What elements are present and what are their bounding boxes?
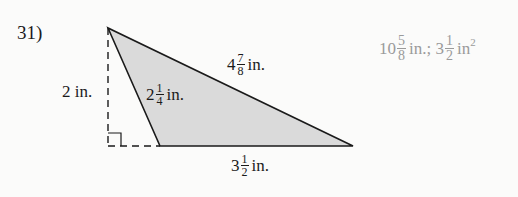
area-whole: 3	[435, 39, 444, 59]
answer-text: 10 58 in.; 3 12 in2	[379, 34, 476, 63]
perimeter-unit: in.;	[409, 39, 431, 59]
top-side-label: 4 78 in.	[227, 52, 265, 77]
left-side-label: 2 14 in.	[146, 82, 184, 107]
area-unit: in	[457, 39, 470, 59]
right-angle-marker	[108, 133, 121, 146]
height-label: 2 in.	[62, 82, 92, 102]
height-unit: in.	[75, 82, 92, 102]
triangle-shape	[108, 28, 353, 146]
height-value: 2	[62, 82, 71, 102]
area-exponent: 2	[470, 36, 476, 48]
base-label: 3 12 in.	[231, 153, 269, 178]
perimeter-whole: 10	[379, 39, 396, 59]
